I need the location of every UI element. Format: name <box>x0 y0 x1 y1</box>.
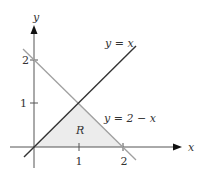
x-tick-label-1: 1 <box>76 155 83 168</box>
y-axis-label: y <box>32 11 40 24</box>
label-y-equals-x: y = x <box>104 37 134 50</box>
x-axis-arrow-icon <box>173 144 182 151</box>
region-label: R <box>75 124 84 137</box>
y-tick-label-1: 1 <box>20 97 27 110</box>
region-diagram: y x 1 2 1 2 y = x y = 2 − x R <box>0 0 200 181</box>
x-tick-label-2: 2 <box>121 155 128 168</box>
y-tick-label-2: 2 <box>22 54 29 67</box>
y-axis-arrow-icon <box>31 25 38 34</box>
x-axis-label: x <box>188 141 195 154</box>
label-y-2-minus-x: y = 2 − x <box>103 112 157 125</box>
